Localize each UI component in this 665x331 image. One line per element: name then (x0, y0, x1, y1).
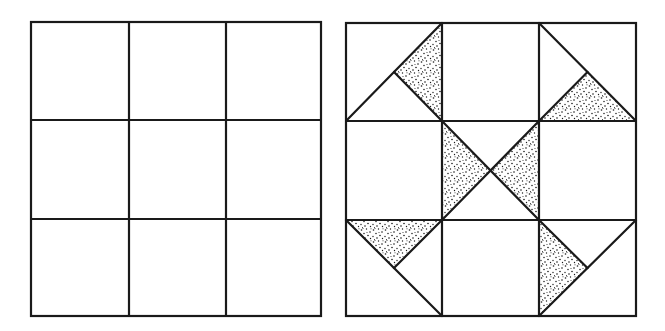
stippled-triangle-bottom-right (539, 220, 588, 316)
blank-grid-border (31, 22, 321, 316)
blank-grid-panel (31, 22, 321, 316)
stippled-triangle-center-left (442, 121, 491, 220)
stippled-triangle-top-left (394, 23, 442, 121)
quilt-diagram (0, 0, 665, 331)
stippled-triangle-top-right (539, 72, 636, 121)
stippled-triangle-center-right (491, 121, 540, 220)
stippled-triangle-bottom-left (346, 220, 442, 268)
quilt-block-panel (346, 23, 636, 316)
